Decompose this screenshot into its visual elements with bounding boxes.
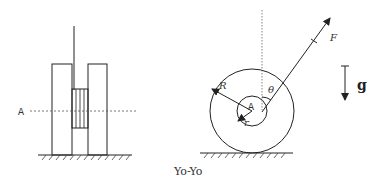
force-label: F [329,32,338,43]
gravity-label: g [357,77,367,93]
center-label: A [248,102,254,113]
axle [72,89,88,128]
inner-radius-label: r [244,117,250,128]
right-disc [88,64,107,155]
outer-radius-arrow [212,89,252,111]
outer-radius-label: R [218,80,227,91]
side-view: A [18,26,138,160]
caption: Yo-Yo [173,165,203,178]
angle-label: θ [268,84,274,95]
force-arrow [262,18,330,112]
side-axis-label: A [18,107,24,118]
yoyo-diagram: A R r A F θ g Yo-Yo [0,0,379,187]
ground-front [200,153,293,158]
gravity-indicator: g [341,66,367,100]
front-view: R r A F θ [200,10,338,158]
angle-arc [262,97,271,100]
left-disc [52,64,72,155]
ground-side [38,155,132,160]
